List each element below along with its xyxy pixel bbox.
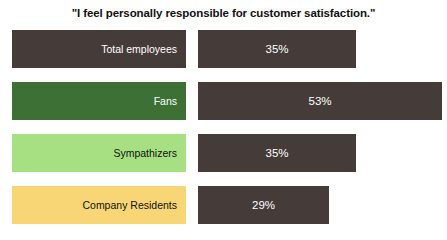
category-bar-company-residents: Company Residents xyxy=(12,186,186,224)
value-bar-fans: 53% xyxy=(198,82,442,120)
value-label: 35% xyxy=(265,43,288,55)
category-bar-fans: Fans xyxy=(12,82,186,120)
value-bar-total-employees: 35% xyxy=(198,30,356,68)
category-label: Fans xyxy=(154,95,177,107)
value-bar-company-residents: 29% xyxy=(198,186,329,224)
category-label: Total employees xyxy=(101,43,177,55)
chart-row: Company Residents 29% xyxy=(0,186,447,224)
chart-row: Fans 53% xyxy=(0,82,447,120)
value-label: 29% xyxy=(252,199,275,211)
category-label: Sympathizers xyxy=(113,147,177,159)
chart-title: "I feel personally responsible for custo… xyxy=(0,7,447,19)
chart-rows: Total employees 35% Fans 53% Sympathizer… xyxy=(0,30,447,238)
category-bar-total-employees: Total employees xyxy=(12,30,186,68)
category-bar-sympathizers: Sympathizers xyxy=(12,134,186,172)
value-bar-sympathizers: 35% xyxy=(198,134,356,172)
chart-row: Sympathizers 35% xyxy=(0,134,447,172)
chart-row: Total employees 35% xyxy=(0,30,447,68)
category-label: Company Residents xyxy=(82,199,177,211)
chart-container: "I feel personally responsible for custo… xyxy=(0,0,447,240)
value-label: 35% xyxy=(265,147,288,159)
value-label: 53% xyxy=(308,95,331,107)
